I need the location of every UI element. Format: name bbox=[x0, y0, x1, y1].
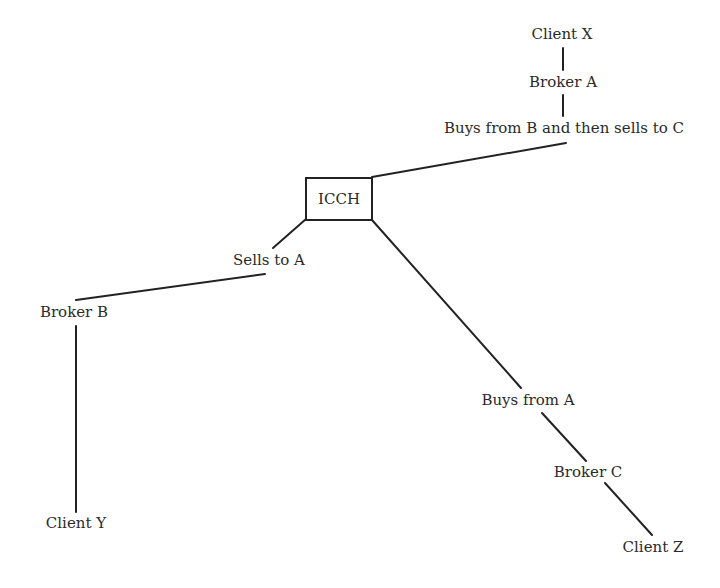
edge-buysfrom-brokerc bbox=[542, 413, 586, 461]
edge-action-icch bbox=[372, 143, 566, 177]
broker-c-action-label: Buys from A bbox=[481, 391, 574, 409]
clearing-house-diagram: ICCH Client X Broker A Buys from B and t… bbox=[0, 0, 720, 588]
edge-icch-buysfrom bbox=[372, 220, 521, 388]
client-x-label: Client X bbox=[531, 25, 592, 43]
client-z-label: Client Z bbox=[623, 538, 684, 556]
edge-sellsto-brokerb bbox=[76, 274, 265, 300]
client-y-label: Client Y bbox=[46, 514, 106, 532]
icch-label: ICCH bbox=[318, 190, 360, 208]
broker-c-label: Broker C bbox=[554, 463, 623, 481]
icch-node: ICCH bbox=[305, 177, 373, 221]
broker-a-label: Broker A bbox=[529, 73, 597, 91]
broker-a-action-label: Buys from B and then sells to C bbox=[444, 119, 684, 137]
broker-b-action-label: Sells to A bbox=[233, 251, 305, 269]
edge-brokerc-clientz bbox=[605, 483, 652, 535]
edge-icch-sellsto bbox=[273, 219, 306, 248]
broker-b-label: Broker B bbox=[40, 303, 108, 321]
connector-lines bbox=[0, 0, 720, 588]
